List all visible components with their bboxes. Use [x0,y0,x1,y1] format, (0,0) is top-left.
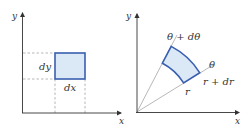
polar-y-label: y [125,11,132,21]
theta-dtheta-label: θ + dθ [167,31,200,42]
cartesian-y-label: y [11,11,18,21]
cartesian-panel: y x dy dx [11,11,124,126]
polar-area-element [162,46,199,83]
r-label: r [185,86,191,97]
polar-x-label: x [235,116,240,126]
dx-label: dx [64,82,76,93]
theta-label: θ [209,59,215,70]
polar-rays [137,35,213,112]
diagram-canvas: y x dy dx y x θ + dθ θ r + dr r [0,0,249,134]
cartesian-area-element [55,53,85,79]
cartesian-x-label: x [119,116,124,126]
r-dr-label: r + dr [203,76,235,87]
polar-panel: y x θ + dθ θ r + dr r [125,11,240,126]
dy-label: dy [39,61,51,72]
